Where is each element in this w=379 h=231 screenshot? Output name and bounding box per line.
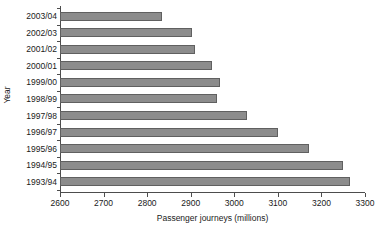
y-axis-tick-mark	[57, 58, 60, 59]
x-axis-tick-mark	[104, 193, 105, 197]
bar-row	[60, 124, 278, 141]
x-axis-tick-mark	[147, 193, 148, 197]
x-axis-tick-label: 3000	[214, 198, 254, 208]
x-axis-tick-mark	[191, 193, 192, 197]
bar-row	[60, 140, 309, 157]
x-axis-tick-mark	[60, 193, 61, 197]
bar	[60, 78, 220, 87]
y-axis-tick-mark	[57, 41, 60, 42]
y-axis-tick-label: 1999/00	[13, 77, 57, 87]
bar-row	[60, 8, 162, 25]
y-axis-tick-mark	[57, 173, 60, 174]
y-axis-tick-mark	[57, 124, 60, 125]
y-axis-tick-mark	[57, 140, 60, 141]
y-axis-tick-label: 1997/98	[13, 111, 57, 121]
x-axis-tick-label: 2600	[40, 198, 80, 208]
y-axis-tick-label: 1994/95	[13, 160, 57, 170]
y-axis-tick-label: 2001/02	[13, 44, 57, 54]
bar-chart: Year 2003/042002/032001/022000/011999/00…	[0, 0, 379, 231]
y-axis-tick-mark	[57, 107, 60, 108]
x-axis-tick-mark	[234, 193, 235, 197]
x-axis-tick-mark	[321, 193, 322, 197]
y-axis-tick-labels: 2003/042002/032001/022000/011999/001998/…	[10, 8, 57, 190]
bar	[60, 111, 247, 120]
x-axis-tick-label: 2800	[127, 198, 167, 208]
bar	[60, 28, 192, 37]
bar-row	[60, 157, 343, 174]
y-axis-tick-mark	[57, 74, 60, 75]
x-axis-tick-label: 3300	[345, 198, 379, 208]
bar	[60, 128, 278, 137]
bar-row	[60, 25, 192, 42]
bar	[60, 61, 212, 70]
x-axis-tick-label: 3100	[258, 198, 298, 208]
x-axis-tick-mark	[365, 193, 366, 197]
y-axis-tick-label: 2000/01	[13, 61, 57, 71]
plot-area	[60, 8, 365, 190]
bar	[60, 94, 217, 103]
y-axis-tick-mark	[57, 190, 60, 191]
bar	[60, 45, 195, 54]
y-axis-tick-label: 2003/04	[13, 11, 57, 21]
x-axis-title: Passenger journeys (millions)	[60, 213, 365, 223]
x-axis-tick-label: 2700	[84, 198, 124, 208]
x-axis-tick-mark	[278, 193, 279, 197]
y-axis-tick-label: 1995/96	[13, 144, 57, 154]
y-axis-tick-mark	[57, 91, 60, 92]
y-axis-tick-mark	[57, 157, 60, 158]
y-axis-tick-label: 1998/99	[13, 94, 57, 104]
x-axis-tick-label: 3200	[301, 198, 341, 208]
bar-row	[60, 41, 195, 58]
bar-row	[60, 107, 247, 124]
x-axis-tick-label: 2900	[171, 198, 211, 208]
y-axis-tick-label: 2002/03	[13, 28, 57, 38]
bar-row	[60, 74, 220, 91]
bar-row	[60, 173, 350, 190]
bar-row	[60, 91, 217, 108]
y-axis-tick-label: 1996/97	[13, 127, 57, 137]
bar	[60, 144, 309, 153]
bar	[60, 12, 162, 21]
bar-row	[60, 58, 212, 75]
x-axis-line	[60, 192, 365, 193]
y-axis-tick-mark	[57, 25, 60, 26]
bar	[60, 161, 343, 170]
bar	[60, 177, 350, 186]
y-axis-tick-label: 1993/94	[13, 177, 57, 187]
y-axis-tick-mark	[57, 8, 60, 9]
